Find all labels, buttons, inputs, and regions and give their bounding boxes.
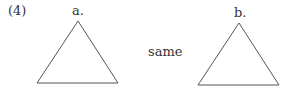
triangles-canvas xyxy=(0,0,290,90)
triangle-a xyxy=(37,21,118,83)
triangle-b xyxy=(198,23,279,85)
